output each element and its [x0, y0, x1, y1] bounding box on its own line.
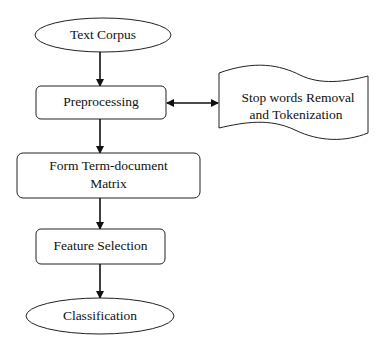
classification-label: Classification [26, 308, 174, 324]
preprocessing-label: Preprocessing [36, 94, 166, 110]
term-matrix-label-line1: Form Term-document [17, 158, 200, 174]
stop-words-label-line1: Stop words Removal [228, 90, 368, 106]
term-matrix-label-line2: Matrix [17, 176, 200, 192]
text-corpus-label: Text Corpus [35, 27, 171, 43]
flowchart-canvas [0, 0, 381, 349]
feature-selection-label: Feature Selection [36, 238, 165, 254]
stop-words-label-line2: and Tokenization [226, 107, 366, 123]
